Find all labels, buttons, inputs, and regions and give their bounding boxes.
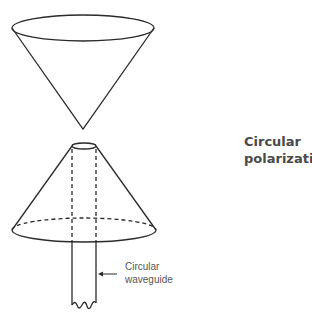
- figure-title-line2: polarization: [244, 150, 312, 167]
- waveguide-break-line: [72, 302, 96, 309]
- waveguide-label-line1: Circular: [125, 261, 160, 272]
- upright-cone-right-side: [96, 146, 156, 230]
- inverted-cone: [12, 15, 154, 129]
- arrowhead-icon: [98, 272, 103, 277]
- waveguide-pointer: [98, 272, 117, 277]
- figure-title-line1: Circular: [244, 133, 312, 150]
- upright-cone-left-side: [12, 146, 72, 230]
- circular-waveguide: [72, 149, 96, 309]
- upright-cone-base-back: [12, 218, 156, 230]
- upright-cone-top-ellipse: [72, 143, 96, 149]
- waveguide-label-line2: waveguide: [124, 274, 173, 285]
- figure-title: Circular polarization: [244, 133, 312, 167]
- inverted-cone-sides: [12, 28, 154, 129]
- upright-cone-base-front: [12, 230, 156, 242]
- diagram-canvas: Circular waveguide Circular polarization: [0, 0, 312, 328]
- inverted-cone-rim: [12, 15, 154, 41]
- upright-cone: [12, 143, 156, 242]
